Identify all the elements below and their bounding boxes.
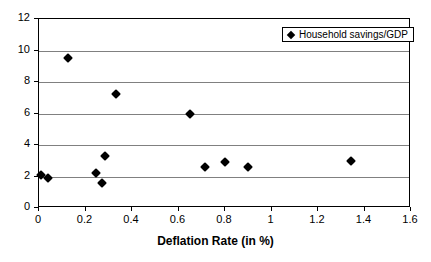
x-tick-mark bbox=[410, 207, 411, 211]
data-point bbox=[346, 156, 356, 166]
x-tick-mark bbox=[317, 207, 318, 211]
y-gridline bbox=[39, 145, 409, 146]
y-tick-label: 6 bbox=[0, 107, 30, 118]
y-tick-mark bbox=[34, 144, 38, 145]
data-point bbox=[200, 162, 210, 172]
data-point bbox=[43, 173, 53, 183]
y-tick-mark bbox=[34, 176, 38, 177]
x-axis-title: Deflation Rate (in %) bbox=[0, 234, 431, 248]
x-tick-label: 1.4 bbox=[344, 214, 384, 225]
x-tick-mark bbox=[364, 207, 365, 211]
data-point bbox=[220, 157, 230, 167]
plot-area bbox=[38, 18, 410, 207]
y-tick-label: 0 bbox=[0, 201, 30, 212]
data-point bbox=[100, 151, 110, 161]
x-tick-label: 1.6 bbox=[390, 214, 430, 225]
x-tick-label: 0.4 bbox=[111, 214, 151, 225]
y-tick-mark bbox=[34, 18, 38, 19]
scatter-chart: Household savings/GDP Deflation Rate (in… bbox=[0, 0, 431, 262]
y-gridline bbox=[39, 114, 409, 115]
diamond-marker-icon bbox=[287, 30, 295, 38]
x-tick-label: 1 bbox=[251, 214, 291, 225]
y-tick-label: 10 bbox=[0, 44, 30, 55]
y-gridline bbox=[39, 82, 409, 83]
x-tick-mark bbox=[131, 207, 132, 211]
chart-legend: Household savings/GDP bbox=[282, 27, 414, 42]
x-tick-label: 0.8 bbox=[204, 214, 244, 225]
data-point bbox=[97, 178, 107, 188]
x-tick-label: 0 bbox=[18, 214, 58, 225]
data-point bbox=[111, 89, 121, 99]
data-point bbox=[63, 53, 73, 63]
y-tick-label: 8 bbox=[0, 75, 30, 86]
x-tick-label: 0.2 bbox=[65, 214, 105, 225]
x-tick-mark bbox=[224, 207, 225, 211]
y-tick-mark bbox=[34, 113, 38, 114]
legend-entry-label: Household savings/GDP bbox=[299, 30, 408, 40]
x-tick-mark bbox=[271, 207, 272, 211]
data-point bbox=[185, 109, 195, 119]
y-tick-label: 12 bbox=[0, 12, 30, 23]
y-tick-label: 2 bbox=[0, 170, 30, 181]
y-tick-mark bbox=[34, 81, 38, 82]
x-tick-mark bbox=[38, 207, 39, 211]
x-tick-mark bbox=[178, 207, 179, 211]
x-tick-mark bbox=[85, 207, 86, 211]
y-tick-mark bbox=[34, 50, 38, 51]
data-point bbox=[243, 162, 253, 172]
x-tick-label: 0.6 bbox=[158, 214, 198, 225]
y-tick-label: 4 bbox=[0, 138, 30, 149]
x-tick-label: 1.2 bbox=[297, 214, 337, 225]
y-gridline bbox=[39, 51, 409, 52]
